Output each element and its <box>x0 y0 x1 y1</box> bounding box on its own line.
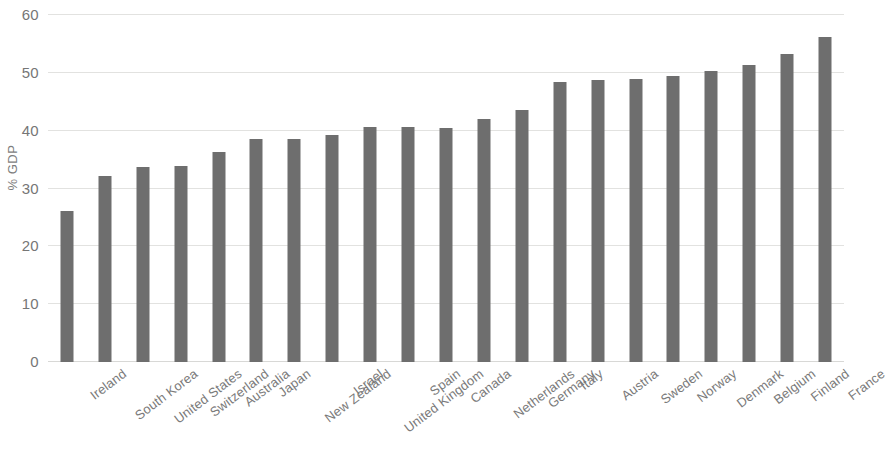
bar-slot <box>427 15 465 362</box>
x-tick-label: Sweden <box>657 366 705 407</box>
bar-slot <box>579 15 617 362</box>
bar[interactable] <box>819 37 832 362</box>
bar[interactable] <box>326 135 339 362</box>
bar[interactable] <box>781 54 794 362</box>
bar[interactable] <box>591 80 604 362</box>
bar-slot <box>389 15 427 362</box>
bar-slot <box>200 15 238 362</box>
y-tick-label: 10 <box>22 295 39 312</box>
bar-slot <box>768 15 806 362</box>
bar-slot <box>654 15 692 362</box>
bar-slot <box>162 15 200 362</box>
bar-slot <box>692 15 730 362</box>
bar-slot <box>465 15 503 362</box>
bar[interactable] <box>212 152 225 363</box>
bar[interactable] <box>288 139 301 362</box>
y-tick-label: 20 <box>22 237 39 254</box>
bar-slot <box>238 15 276 362</box>
y-tick-label: 40 <box>22 121 39 138</box>
bar[interactable] <box>667 76 680 362</box>
bar-slot <box>86 15 124 362</box>
bar-series <box>48 15 844 362</box>
bar[interactable] <box>174 166 187 362</box>
bar-slot <box>313 15 351 362</box>
x-tick-label: France <box>845 366 887 403</box>
bar-slot <box>617 15 655 362</box>
plot-area: 0102030405060 <box>48 15 844 362</box>
bar-slot <box>351 15 389 362</box>
bar-slot <box>275 15 313 362</box>
bar-slot <box>541 15 579 362</box>
x-tick-label: Ireland <box>87 366 129 403</box>
bar[interactable] <box>553 82 566 362</box>
bar[interactable] <box>60 211 73 362</box>
y-tick-label: 50 <box>22 63 39 80</box>
bar[interactable] <box>364 127 377 362</box>
bar[interactable] <box>98 176 111 362</box>
bar-slot <box>503 15 541 362</box>
bar-slot <box>730 15 768 362</box>
y-tick-label: 60 <box>22 6 39 23</box>
bar[interactable] <box>515 110 528 362</box>
bar-slot <box>48 15 86 362</box>
bar[interactable] <box>629 79 642 362</box>
y-tick-label: 0 <box>30 353 39 370</box>
bar-slot <box>124 15 162 362</box>
x-axis-labels: IrelandSouth KoreaUnited StatesSwitzerla… <box>48 366 844 452</box>
y-axis-title: % GDP <box>5 128 20 208</box>
x-tick-label: Austria <box>618 366 660 403</box>
bar[interactable] <box>743 65 756 362</box>
x-tick-label: Finland <box>808 366 852 404</box>
y-tick-label: 30 <box>22 179 39 196</box>
bar[interactable] <box>477 119 490 362</box>
bar[interactable] <box>439 128 452 362</box>
bar[interactable] <box>705 71 718 362</box>
bar[interactable] <box>136 167 149 362</box>
bar[interactable] <box>250 139 263 362</box>
bar-slot <box>806 15 844 362</box>
bar[interactable] <box>402 127 415 362</box>
